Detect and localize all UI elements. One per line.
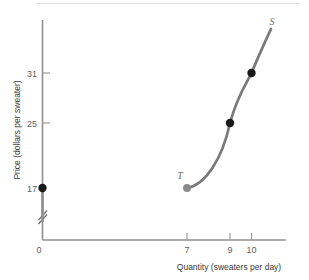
x-tick-label-9: 9: [227, 245, 232, 255]
figure-root: 31 25 17 0 7 9 10 S T Quantity (sweaters…: [0, 0, 309, 280]
data-point-0-17[interactable]: [38, 184, 46, 192]
y-axis-title: Price (dollars per sweater): [12, 80, 22, 179]
curve-label-s: S: [270, 16, 275, 27]
x-axis-ticks: [187, 233, 252, 240]
x-tick-label-10: 10: [246, 245, 256, 255]
axes-group: [43, 20, 287, 240]
data-point-7-17[interactable]: [183, 184, 191, 192]
supply-curve-chart: 31 25 17 0 7 9 10 S T Quantity (sweaters…: [0, 0, 309, 280]
origin-label: 0: [36, 245, 41, 255]
y-tick-label-31: 31: [27, 69, 37, 79]
curve-label-t: T: [177, 170, 184, 181]
data-point-markers: [38, 69, 255, 192]
data-point-9-25[interactable]: [226, 119, 234, 127]
supply-curve-path: [187, 29, 271, 188]
data-point-10-31[interactable]: [247, 69, 255, 77]
x-axis-title: Quantity (sweaters per day): [177, 262, 282, 272]
y-axis-ticks: [43, 73, 51, 123]
y-tick-label-17: 17: [27, 184, 37, 194]
x-tick-label-7: 7: [184, 245, 189, 255]
y-tick-label-25: 25: [27, 119, 37, 129]
